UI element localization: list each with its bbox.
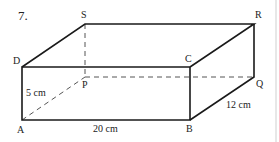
vertex-label-Q: Q <box>256 78 264 89</box>
dimension-length: 20 cm <box>93 123 118 134</box>
vertex-label-D: D <box>13 55 20 66</box>
edge-AP <box>22 77 85 120</box>
vertex-label-P: P <box>82 79 88 90</box>
hidden-edges <box>22 24 254 120</box>
dimension-height: 5 cm <box>26 87 46 98</box>
visible-edges <box>22 24 254 120</box>
top-face-edges <box>22 24 254 67</box>
vertex-label-S: S <box>81 9 87 20</box>
vertex-label-A: A <box>17 124 25 135</box>
vertex-label-B: B <box>186 123 193 134</box>
problem-number: 7. <box>18 8 28 23</box>
dimension-width: 12 cm <box>226 99 251 110</box>
vertex-label-R: R <box>255 9 262 20</box>
cuboid-diagram: 7. S R D C P Q A B 5 cm 20 cm 12 cm <box>0 0 279 142</box>
front-face <box>22 67 190 120</box>
vertex-label-C: C <box>185 53 192 64</box>
